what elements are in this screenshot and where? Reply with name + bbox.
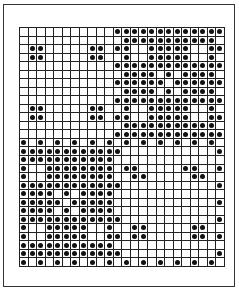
dot-icon (200, 38, 205, 43)
grid-cell (88, 122, 97, 131)
grid-cell (148, 190, 157, 199)
dot-icon (115, 46, 120, 51)
grid-cell (165, 258, 174, 267)
grid-cell (37, 207, 46, 216)
dot-icon (132, 234, 137, 239)
dot-icon (132, 63, 137, 68)
grid-cell (148, 199, 157, 208)
grid-cell (122, 199, 131, 208)
grid-cell (199, 241, 208, 250)
dot-icon (81, 166, 86, 171)
grid-cell (157, 147, 166, 156)
dot-icon (200, 89, 205, 94)
dot-icon (55, 140, 60, 145)
dot-icon (217, 115, 222, 120)
dot-icon (158, 46, 163, 51)
grid-cell (71, 54, 80, 63)
dot-icon (64, 217, 69, 222)
grid-cell (97, 96, 106, 105)
grid-cell (80, 182, 89, 191)
grid-cell (191, 258, 200, 267)
grid-cell (131, 45, 140, 54)
grid-cell (71, 190, 80, 199)
grid-cell (29, 258, 38, 267)
grid-cell (80, 71, 89, 80)
grid-cell (208, 139, 217, 148)
dot-icon (98, 166, 103, 171)
grid-cell (97, 216, 106, 225)
grid-cell (20, 156, 29, 165)
dot-icon (30, 208, 35, 213)
grid-cell (88, 139, 97, 148)
grid-cell (122, 224, 131, 233)
grid-cell (37, 79, 46, 88)
grid-cell (139, 96, 148, 105)
grid-cell (174, 37, 183, 46)
dot-icon (90, 106, 95, 111)
grid-cell (54, 241, 63, 250)
grid-cell (46, 139, 55, 148)
dot-icon (72, 251, 77, 256)
grid-cell (20, 28, 29, 37)
grid-cell (131, 79, 140, 88)
grid-cell (191, 28, 200, 37)
dot-icon (200, 225, 205, 230)
grid-cell (20, 241, 29, 250)
grid-cell (122, 233, 131, 242)
grid-cell (71, 258, 80, 267)
grid-cell (20, 173, 29, 182)
grid-cell (63, 216, 72, 225)
dot-icon (115, 98, 120, 103)
grid-cell (208, 233, 217, 242)
dot-icon (192, 80, 197, 85)
dot-icon (200, 123, 205, 128)
grid-cell (182, 79, 191, 88)
grid-cell (139, 105, 148, 114)
dot-icon (124, 140, 129, 145)
grid-cell (191, 199, 200, 208)
grid-cell (105, 28, 114, 37)
dot-icon (98, 191, 103, 196)
dot-icon (217, 63, 222, 68)
grid-cell (157, 173, 166, 182)
grid-cell (63, 105, 72, 114)
grid-cell (20, 113, 29, 122)
grid-cell (71, 96, 80, 105)
dot-icon (90, 217, 95, 222)
grid-cell (148, 45, 157, 54)
dot-icon (72, 243, 77, 248)
dot-icon (38, 46, 43, 51)
grid-cell (216, 233, 225, 242)
dot-icon (30, 157, 35, 162)
dot-icon (107, 260, 112, 265)
dot-icon (166, 38, 171, 43)
dot-icon (98, 208, 103, 213)
dot-icon (64, 149, 69, 154)
grid-cell (122, 105, 131, 114)
grid-cell (114, 54, 123, 63)
grid-cell (20, 199, 29, 208)
dot-icon (132, 98, 137, 103)
grid-cell (216, 71, 225, 80)
grid-cell (114, 28, 123, 37)
grid-cell (174, 147, 183, 156)
dot-icon (107, 157, 112, 162)
grid-cell (54, 233, 63, 242)
grid-cell (199, 250, 208, 259)
dot-icon (21, 251, 26, 256)
grid-cell (20, 79, 29, 88)
grid-cell (174, 54, 183, 63)
dot-icon (107, 191, 112, 196)
grid-cell (71, 147, 80, 156)
grid-cell (216, 207, 225, 216)
dot-icon (90, 46, 95, 51)
dot-icon (72, 217, 77, 222)
grid-cell (131, 190, 140, 199)
dot-icon (132, 89, 137, 94)
grid-cell (37, 250, 46, 259)
grid-cell (174, 224, 183, 233)
dot-icon (209, 115, 214, 120)
grid-cell (54, 105, 63, 114)
grid-cell (105, 96, 114, 105)
dot-icon (183, 132, 188, 137)
